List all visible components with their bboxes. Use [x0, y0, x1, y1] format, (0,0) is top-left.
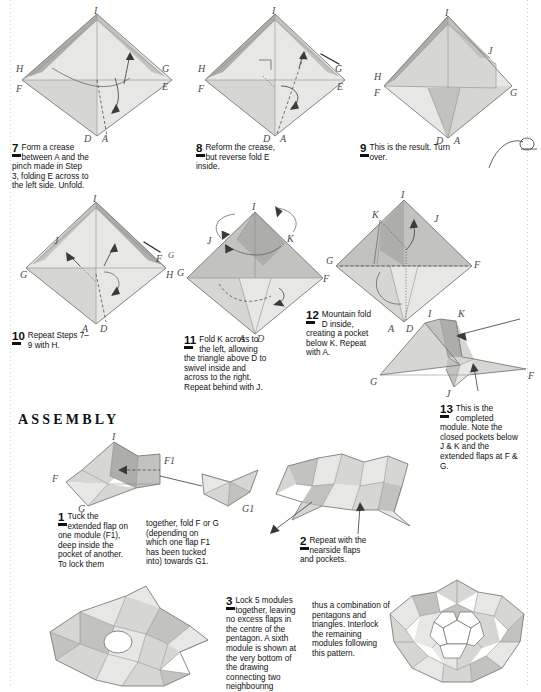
step-number: 10	[12, 331, 25, 341]
figure-label: I	[111, 431, 116, 442]
figure-label: A	[453, 135, 461, 146]
step-text: Fold K across to the left, allowing the …	[184, 335, 270, 393]
step-text: Lock 5 modules together, leaving no exce…	[226, 596, 302, 692]
figure-label: G1	[242, 503, 254, 514]
figure-label: K	[371, 209, 380, 220]
figure-step-7: G E H F I D A	[12, 8, 182, 143]
figure-finished-model	[382, 578, 532, 685]
caption-assembly-1: 1 Tuck the extended flap on one module (…	[58, 512, 130, 570]
figure-step-8: G E H F I D A	[195, 8, 355, 143]
figure-label: J	[446, 388, 451, 399]
figure-label: E	[161, 81, 168, 92]
assembly-section-heading: ASSEMBLY	[18, 412, 119, 428]
step-text: Form a crease between A and the pinch ma…	[12, 143, 90, 191]
figure-label: I	[427, 308, 432, 319]
caption-step-9: 9 This is the result. Turn over.	[360, 143, 450, 162]
figure-label: G	[335, 63, 342, 74]
figure-label: H	[197, 63, 206, 74]
step-number: 1	[58, 512, 64, 522]
caption-assembly-3-continuation: thus a combination of pentagons and tria…	[312, 601, 392, 659]
caption-step-8: 8 Reform the crease, but reverse fold E …	[196, 143, 276, 172]
figure-label: K	[457, 308, 466, 319]
figure-label: G	[20, 269, 27, 280]
figure-assembly-3-pentagon-cluster	[30, 582, 220, 687]
step-number: 11	[184, 335, 196, 345]
step-number: 13	[440, 404, 453, 414]
figure-step-13: I K G F J	[370, 305, 535, 397]
figure-label: H	[373, 71, 382, 82]
figure-label: F	[473, 259, 481, 270]
figure-assembly-1: I F G F1 G1	[52, 432, 272, 512]
figure-label: H	[15, 63, 24, 74]
caption-step-13: 13 This is the completed module. Note th…	[440, 404, 524, 471]
page-edge-rule-left	[10, 0, 11, 685]
caption-assembly-3: 3 Lock 5 modules together, leaving no ex…	[226, 596, 302, 692]
figure-label: G	[162, 63, 169, 74]
figure-label: G	[326, 255, 333, 266]
figure-label: J	[207, 235, 212, 246]
figure-label: F	[527, 370, 535, 381]
figure-label: F	[197, 83, 205, 94]
figure-label: F	[51, 473, 59, 484]
figure-label: A	[279, 133, 287, 144]
step-number: 12	[306, 310, 319, 320]
figure-label: J	[434, 213, 439, 224]
figure-label: G	[168, 250, 174, 260]
caption-assembly-2: 2 Repeat with the nearside flaps and poc…	[300, 536, 372, 565]
step-number: 8	[196, 143, 202, 153]
figure-label: I	[400, 189, 405, 200]
figure-label: J	[54, 235, 59, 246]
caption-step-10: 10 Repeat Steps 7–9 with H.	[12, 331, 92, 350]
step-number: 2	[300, 536, 306, 546]
step-number: 9	[360, 143, 366, 153]
figure-label: H	[165, 269, 174, 280]
figure-label: F	[155, 253, 163, 264]
caption-step-7: 7 Form a crease between A and the pinch …	[12, 143, 90, 191]
figure-step-9: J G H F I D A	[360, 8, 525, 143]
caption-step-11: 11 Fold K across to the left, allowing t…	[184, 335, 270, 393]
step-text: This is the result. Turn over.	[360, 143, 450, 162]
figure-assembly-2	[268, 440, 428, 538]
figure-label: I	[444, 7, 449, 18]
figure-label: G	[510, 87, 517, 98]
step-text: Repeat with the nearside flaps and pocke…	[300, 536, 372, 565]
figure-label: A	[101, 133, 109, 144]
figure-label: E	[336, 81, 343, 92]
figure-label: I	[251, 201, 256, 212]
step-number: 7	[12, 143, 18, 153]
figure-label: F1	[163, 455, 175, 466]
figure-label: F	[15, 83, 23, 94]
figure-label: F	[373, 87, 381, 98]
figure-label: I	[271, 5, 276, 16]
figure-label: I	[93, 5, 98, 16]
caption-assembly-1-continuation: together, fold F or G (depending on whic…	[146, 519, 220, 567]
figure-step-10: J F G H G I A D	[18, 196, 178, 331]
step-number: 3	[226, 596, 232, 606]
figure-label: G	[177, 267, 184, 278]
turn-over-arrow	[485, 130, 541, 170]
caption-step-12: 12 Mountain fold D inside, creating a po…	[306, 310, 378, 358]
figure-label: D	[99, 323, 108, 334]
step-text: Reform the crease, but reverse fold E in…	[196, 143, 276, 172]
figure-label: G	[370, 376, 377, 387]
step-text: Tuck the extended flap on one module (F1…	[58, 512, 130, 570]
figure-label: J	[488, 45, 493, 56]
figure-label: K	[286, 233, 295, 244]
figure-label: I	[92, 193, 97, 204]
